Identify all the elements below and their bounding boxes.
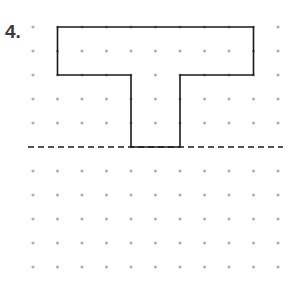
grid-dot [252,169,255,172]
grid-dot [178,169,181,172]
grid-dot [105,169,108,172]
grid-dot [31,169,34,172]
grid-dot [80,265,83,268]
grid-dot [80,169,83,172]
grid-dot [178,265,181,268]
grid-dot [276,121,279,124]
grid-dot [129,241,132,244]
grid-dot [56,121,59,124]
grid-dot [56,241,59,244]
grid-dot [105,217,108,220]
grid-dot [80,193,83,196]
grid-dot [129,265,132,268]
grid-dot [154,241,157,244]
grid-dot [252,193,255,196]
grid-dot [105,97,108,100]
grid-dot [154,97,157,100]
grid-dot [31,265,34,268]
grid-dot [105,193,108,196]
grid-dot [31,73,34,76]
grid-dot [252,241,255,244]
grid-dot [276,97,279,100]
grid-dot [105,241,108,244]
grid-dot [252,97,255,100]
grid-dot [154,121,157,124]
grid-dot [56,97,59,100]
grid-dot [276,25,279,28]
t-shape-figure [58,27,254,147]
grid-dot [80,49,83,52]
grid-dot [203,97,206,100]
grid-dot [129,193,132,196]
grid-dot [276,241,279,244]
grid-dot [227,193,230,196]
grid-dot [178,241,181,244]
grid-dot [154,217,157,220]
grid-dot [154,73,157,76]
grid-dot [203,169,206,172]
grid-dot [129,49,132,52]
grid-dot [105,49,108,52]
grid-dot [80,97,83,100]
grid-dot [31,241,34,244]
grid-dot [276,265,279,268]
grid-dot [31,97,34,100]
grid-dot [105,121,108,124]
grid-dot [252,265,255,268]
grid-dot [154,265,157,268]
grid-dot [252,217,255,220]
grid-dot [252,121,255,124]
grid-dot [227,121,230,124]
grid-dot [31,217,34,220]
grid-dot [178,193,181,196]
grid-dot [80,217,83,220]
grid-dot [154,193,157,196]
grid-dot [56,169,59,172]
grid-dot [276,193,279,196]
grid-dot [154,49,157,52]
grid-dot [203,49,206,52]
grid-dot [276,49,279,52]
grid-dot [227,49,230,52]
grid-dot [227,217,230,220]
grid-dot [203,265,206,268]
grid-dot [31,49,34,52]
grid-dot [31,121,34,124]
grid-dot [56,193,59,196]
grid-dot [203,217,206,220]
grid-dot [56,217,59,220]
grid-dot [276,169,279,172]
grid-dot [276,217,279,220]
grid-dot [80,121,83,124]
grid-dot [80,241,83,244]
grid-dot [227,265,230,268]
grid-dot [154,169,157,172]
grid-dot [203,121,206,124]
grid-dot [178,49,181,52]
grid-dot [56,265,59,268]
grid-dot [178,217,181,220]
grid-dot [203,193,206,196]
grid-dot [31,193,34,196]
grid-dot [129,217,132,220]
dot-grid-diagram [0,0,298,281]
grid-dot [31,25,34,28]
grid-dot [203,241,206,244]
grid-dot [129,169,132,172]
grid-dot [227,97,230,100]
grid-dot [227,169,230,172]
grid-dot [105,265,108,268]
grid-dot [227,241,230,244]
grid-dot [276,73,279,76]
